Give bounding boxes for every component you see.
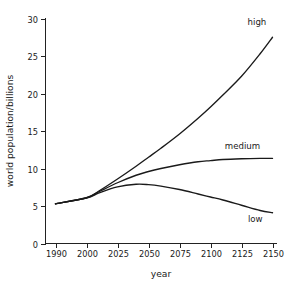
y-tick-label: 5 (33, 202, 38, 212)
series-line-low (56, 184, 273, 213)
x-tick-label: 2075 (170, 249, 191, 259)
series-label-medium: medium (225, 141, 260, 151)
series-annotations: highmediumlow (225, 17, 267, 224)
y-tick-label: 10 (28, 165, 38, 175)
y-axis-title: world population/billions (4, 75, 15, 188)
y-axis-ticks: 051015202530 (28, 15, 46, 250)
axes-group (46, 18, 278, 244)
x-tick-label: 2025 (108, 249, 129, 259)
x-tick-label: 2125 (232, 249, 253, 259)
series-line-medium (56, 158, 273, 203)
chart-plot-area: 051015202530 199020002025205020752100212… (0, 0, 296, 284)
world-population-projection-chart: 051015202530 199020002025205020752100212… (0, 0, 296, 284)
x-axis-ticks: 19902000202520502075210021252150 (46, 244, 284, 260)
x-tick-label: 2150 (263, 249, 284, 259)
y-tick-label: 20 (28, 90, 38, 100)
x-tick-label: 2100 (201, 249, 222, 259)
y-tick-label: 30 (28, 15, 38, 25)
series-line-high (56, 37, 273, 204)
y-tick-label: 0 (33, 240, 38, 250)
x-tick-label: 2000 (77, 249, 98, 259)
x-axis-title: year (151, 268, 172, 279)
y-tick-label: 25 (28, 52, 38, 62)
x-tick-label: 1990 (46, 249, 67, 259)
series-label-low: low (248, 214, 263, 224)
series-label-high: high (248, 17, 267, 27)
series-lines (56, 37, 273, 213)
y-tick-label: 15 (28, 127, 38, 137)
x-tick-label: 2050 (139, 249, 160, 259)
